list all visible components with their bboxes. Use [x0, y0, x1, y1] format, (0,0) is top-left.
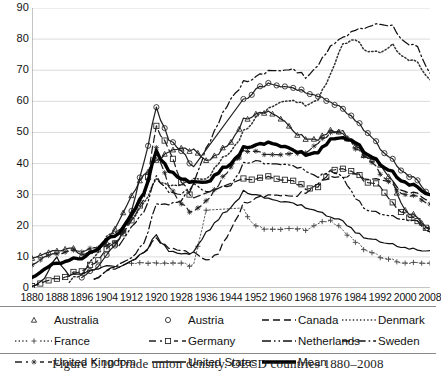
y-axis-tick-label: 40 [3, 158, 29, 169]
y-axis-tick-label: 70 [3, 64, 29, 75]
series-sweden [94, 24, 430, 279]
data-point-marker [145, 261, 150, 266]
legend-item-france[interactable]: France [14, 330, 90, 351]
data-point-marker [179, 201, 184, 206]
data-point-marker [54, 251, 59, 256]
x-axis-tick-label: 1960 [269, 291, 292, 303]
legend-label: Australia [54, 313, 99, 327]
data-point-marker [353, 146, 358, 151]
x-axis-tick-label: 1888 [45, 291, 68, 303]
data-point-marker [336, 129, 341, 134]
legend-item-austria[interactable]: Austria [148, 309, 224, 330]
legend-item-canada[interactable]: Canada [258, 309, 338, 330]
legend-item-australia[interactable]: Australia [14, 309, 99, 330]
y-axis-tick-label: 80 [3, 33, 29, 44]
data-point-marker [170, 260, 175, 265]
data-point-marker [419, 261, 424, 266]
data-point-marker [262, 152, 267, 157]
series-line [32, 190, 430, 286]
data-point-marker [361, 247, 366, 252]
data-point-marker [311, 143, 316, 148]
legend-item-sweden[interactable]: Sweden [338, 330, 420, 351]
x-axis-tick-label: 1928 [170, 291, 193, 303]
data-point-marker [394, 259, 399, 264]
data-point-marker [162, 170, 167, 175]
data-point-marker [154, 260, 159, 265]
data-point-marker [245, 149, 250, 154]
x-axis-tick-label: 2008 [419, 291, 441, 303]
data-point-marker [369, 250, 374, 255]
data-point-marker [165, 317, 170, 322]
y-axis-tick-label: 20 [3, 220, 29, 231]
legend-swatch-icon [148, 313, 188, 327]
x-axis-tick-label: 1984 [344, 291, 367, 303]
y-axis-tick-label: 60 [3, 95, 29, 106]
data-point-marker [46, 253, 51, 258]
data-point-marker [386, 179, 391, 184]
data-point-marker [320, 136, 325, 141]
x-axis-tick-label: 1912 [120, 291, 143, 303]
legend-swatch-icon [14, 334, 54, 348]
data-point-marker [394, 187, 399, 192]
data-point-marker [403, 260, 408, 265]
legend-swatch-icon [258, 313, 298, 327]
data-point-marker [187, 210, 192, 215]
legend-swatch-icon [338, 313, 378, 327]
data-point-marker [303, 228, 308, 233]
series-united-states [32, 190, 430, 286]
series-germany [32, 123, 430, 288]
legend-label: France [54, 334, 90, 348]
data-point-marker [427, 201, 430, 206]
x-axis-tick-label: 1944 [220, 291, 243, 303]
data-point-marker [162, 260, 167, 265]
data-point-marker [320, 219, 325, 224]
data-point-marker [204, 208, 209, 213]
legend-label: Canada [298, 313, 338, 327]
chart-legend: AustraliaAustriaCanadaDenmarkFranceGerma… [0, 306, 436, 354]
data-point-marker [427, 261, 430, 266]
data-point-marker [286, 151, 291, 156]
x-axis-tick-label: 2000 [394, 291, 417, 303]
legend-label: Germany [188, 334, 235, 348]
data-point-marker [212, 187, 217, 192]
y-axis-tick-label: 10 [3, 251, 29, 262]
legend-row: AustraliaAustriaCanadaDenmark [0, 309, 436, 330]
legend-swatch-icon [148, 334, 188, 348]
chart-svg [32, 8, 430, 288]
y-axis-tick-label: 30 [3, 189, 29, 200]
data-point-marker [411, 193, 416, 198]
data-point-marker [79, 249, 84, 254]
data-point-marker [112, 240, 117, 245]
data-point-marker [262, 227, 267, 232]
series-united-kingdom [32, 129, 430, 267]
x-axis-tick-label: 1952 [244, 291, 267, 303]
series-line [82, 83, 430, 278]
figure-caption: Figure 5.10 Trade union density. OECD co… [0, 356, 436, 371]
x-axis-tick-label: 1992 [369, 291, 392, 303]
legend-item-denmark[interactable]: Denmark [338, 309, 425, 330]
legend-marker-backing [162, 335, 174, 347]
y-axis: 0102030405060708090 [0, 0, 29, 296]
data-point-marker [328, 130, 333, 135]
x-axis: 1880188818961904191219201928193619441952… [32, 291, 432, 307]
data-point-marker [403, 192, 408, 197]
x-axis-tick-label: 1880 [21, 291, 44, 303]
data-point-marker [411, 260, 416, 265]
data-point-marker [195, 205, 200, 210]
data-point-marker [204, 198, 209, 203]
data-point-marker [270, 227, 275, 232]
data-point-marker [278, 152, 283, 157]
legend-swatch-icon [258, 334, 298, 348]
legend-item-germany[interactable]: Germany [148, 330, 235, 351]
data-point-marker [63, 250, 68, 255]
data-point-marker [419, 198, 424, 203]
legend-label: Austria [188, 313, 224, 327]
data-point-marker [179, 260, 184, 265]
x-axis-tick-label: 1936 [195, 291, 218, 303]
legend-swatch-icon [338, 334, 378, 348]
data-point-marker [378, 172, 383, 177]
data-point-marker [220, 174, 225, 179]
y-axis-tick-label: 90 [3, 2, 29, 13]
x-axis-tick-label: 1920 [145, 291, 168, 303]
plot-area [32, 8, 430, 288]
